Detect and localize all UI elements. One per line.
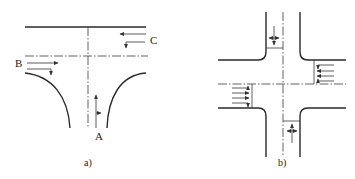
panel-b-four-leg-intersection: b) — [218, 12, 346, 169]
panel-a-t-intersection: C B A a) — [15, 27, 157, 169]
arrow-turn-right-icon — [232, 103, 248, 107]
curb-bottom-right — [300, 108, 346, 157]
label-c: C — [150, 34, 157, 46]
curb-right — [107, 73, 146, 128]
caption-a: a) — [84, 157, 92, 169]
approach-top-arrows — [269, 26, 279, 45]
arrow-turn-left-icon — [126, 42, 145, 48]
approach-c-arrows — [120, 34, 146, 48]
curb-bottom-left — [218, 108, 266, 157]
approach-a-arrows — [96, 95, 101, 128]
curb-top-left — [218, 12, 266, 60]
arrow-turn-right-icon — [318, 79, 334, 81]
approach-bottom-arrows — [287, 124, 297, 143]
approach-left-arrows — [232, 86, 249, 107]
approach-b-arrows — [27, 63, 58, 75]
arrow-turn-left-icon — [318, 65, 334, 69]
intersection-figure: C B A a) — [0, 0, 355, 179]
caption-b: b) — [278, 157, 286, 169]
label-b: B — [15, 57, 22, 69]
curb-top-right — [300, 12, 346, 60]
label-a: A — [95, 130, 103, 142]
curb-left — [25, 73, 70, 128]
arrow-turn-left-icon — [232, 86, 248, 88]
approach-right-arrows — [317, 65, 334, 81]
